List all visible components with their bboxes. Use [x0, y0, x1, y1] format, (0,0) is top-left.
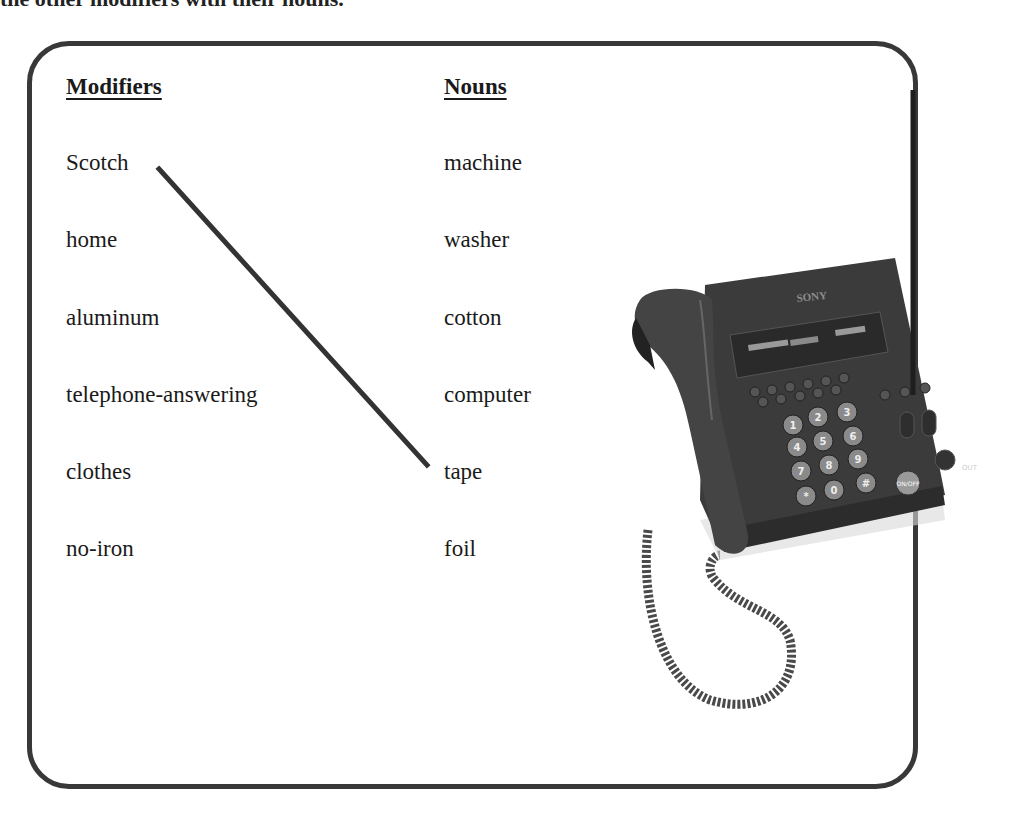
- illustration-layer: SONY 1 2 3 4 5 6 7 8 9 *: [0, 0, 1016, 815]
- svg-text:9: 9: [855, 454, 862, 465]
- out-label: OUT: [962, 464, 978, 472]
- svg-text:6: 6: [850, 431, 857, 442]
- svg-text:8: 8: [826, 460, 833, 471]
- svg-text:1: 1: [790, 420, 797, 431]
- svg-text:5: 5: [820, 436, 827, 447]
- svg-text:4: 4: [794, 442, 801, 453]
- svg-text:7: 7: [798, 466, 805, 477]
- svg-text:0: 0: [831, 485, 838, 496]
- telephone-answering-machine-image: SONY 1 2 3 4 5 6 7 8 9 *: [632, 258, 978, 704]
- svg-text:2: 2: [815, 412, 822, 423]
- svg-text:*: *: [803, 491, 809, 502]
- match-line: [159, 169, 427, 465]
- svg-text:#: #: [862, 478, 870, 489]
- svg-text:3: 3: [844, 407, 851, 418]
